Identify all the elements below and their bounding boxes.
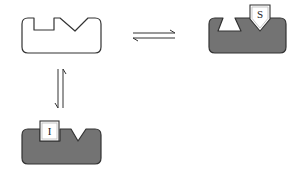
ligand-i-label: I xyxy=(48,125,52,137)
ligand-i: I xyxy=(40,121,59,141)
ligand-s-label: S xyxy=(257,8,263,20)
vertical-equilibrium-arrows xyxy=(55,69,66,108)
substrate-complex: S xyxy=(209,5,286,53)
inhibitor-complex: I xyxy=(22,121,101,164)
binding-equilibrium-diagram: S I xyxy=(0,0,298,175)
substrate-complex-receptor-shape xyxy=(209,18,286,53)
horizontal-equilibrium-arrows xyxy=(133,30,175,41)
free-receptor-shape xyxy=(22,18,101,53)
free-receptor xyxy=(22,18,101,53)
inhibitor-complex-receptor-shape xyxy=(22,129,101,164)
